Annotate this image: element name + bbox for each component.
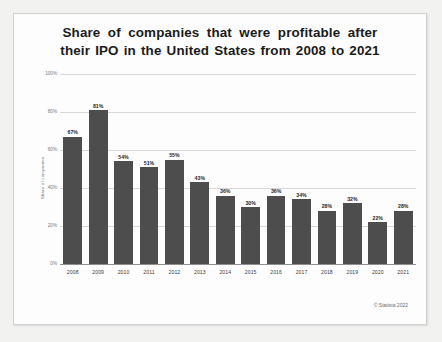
bar-slot[interactable]: 36% bbox=[263, 74, 288, 264]
bar-slot[interactable]: 36% bbox=[213, 74, 238, 264]
chart-card: Share of companies that were profitable … bbox=[13, 13, 427, 325]
y-axis-tick-label: 60% bbox=[48, 147, 57, 152]
bar[interactable]: 32% bbox=[343, 203, 362, 264]
bar-value-label: 81% bbox=[93, 103, 103, 109]
x-axis-tick-label: 2020 bbox=[365, 269, 390, 275]
y-axis-tick-label: 100% bbox=[45, 71, 57, 76]
screenshot-canvas: Share of companies that were profitable … bbox=[0, 0, 442, 342]
bar-value-label: 30% bbox=[245, 200, 255, 206]
bar[interactable]: 28% bbox=[394, 211, 413, 264]
bar-slot[interactable]: 81% bbox=[85, 74, 110, 264]
chart-title-line-2: their IPO in the United States from 2008… bbox=[14, 42, 426, 60]
bar-value-label: 32% bbox=[347, 196, 357, 202]
bar-value-label: 67% bbox=[68, 129, 78, 135]
bar-slot[interactable]: 28% bbox=[390, 74, 415, 264]
bar[interactable]: 30% bbox=[241, 207, 260, 264]
bar[interactable]: 43% bbox=[190, 182, 209, 264]
bar-slot[interactable]: 55% bbox=[162, 74, 187, 264]
x-axis-tick-label: 2012 bbox=[162, 269, 187, 275]
bar[interactable]: 36% bbox=[216, 196, 235, 264]
bar-value-label: 36% bbox=[220, 188, 230, 194]
bar-value-label: 54% bbox=[118, 154, 128, 160]
x-axis-tick-label: 2013 bbox=[187, 269, 212, 275]
bar[interactable]: 51% bbox=[140, 167, 159, 264]
bar-slot[interactable]: 51% bbox=[136, 74, 161, 264]
x-axis-tick-label: 2019 bbox=[340, 269, 365, 275]
x-axis-tick-label: 2011 bbox=[136, 269, 161, 275]
bar-slot[interactable]: 43% bbox=[187, 74, 212, 264]
x-axis-tick-label: 2008 bbox=[60, 269, 85, 275]
y-axis-tick-label: 40% bbox=[48, 185, 57, 190]
bar-value-label: 34% bbox=[296, 192, 306, 198]
chart-title-line-1: Share of companies that were profitable … bbox=[14, 24, 426, 42]
x-axis-tick-label: 2021 bbox=[390, 269, 415, 275]
bar-slot[interactable]: 32% bbox=[340, 74, 365, 264]
bar[interactable]: 54% bbox=[114, 161, 133, 264]
bar[interactable]: 36% bbox=[267, 196, 286, 264]
bar-slot[interactable]: 67% bbox=[60, 74, 85, 264]
bar[interactable]: 81% bbox=[89, 110, 108, 264]
bar-value-label: 51% bbox=[144, 160, 154, 166]
x-axis-tick-label: 2014 bbox=[213, 269, 238, 275]
bar-value-label: 36% bbox=[271, 188, 281, 194]
chart-title: Share of companies that were profitable … bbox=[14, 24, 426, 60]
bar-value-label: 55% bbox=[169, 152, 179, 158]
bar[interactable]: 55% bbox=[165, 160, 184, 265]
x-axis-tick-label: 2015 bbox=[238, 269, 263, 275]
y-axis-tick-label: 80% bbox=[48, 109, 57, 114]
plot-area: Share of companies 0%20%40%60%80%100% 67… bbox=[44, 74, 416, 282]
bar-value-label: 43% bbox=[195, 175, 205, 181]
bar-value-label: 28% bbox=[322, 203, 332, 209]
x-axis-tick-label: 2016 bbox=[263, 269, 288, 275]
bar-slot[interactable]: 30% bbox=[238, 74, 263, 264]
x-axis-labels: 2008200920102011201220132014201520162017… bbox=[60, 266, 416, 282]
bar[interactable]: 22% bbox=[368, 222, 387, 264]
bar-value-label: 22% bbox=[373, 215, 383, 221]
x-axis-tick-label: 2018 bbox=[314, 269, 339, 275]
bar-slot[interactable]: 54% bbox=[111, 74, 136, 264]
bar-slot[interactable]: 22% bbox=[365, 74, 390, 264]
bar[interactable]: 67% bbox=[63, 137, 82, 264]
gridline bbox=[60, 264, 416, 265]
y-axis-tick-label: 0% bbox=[50, 261, 57, 266]
x-axis-tick-label: 2017 bbox=[289, 269, 314, 275]
bar[interactable]: 34% bbox=[292, 199, 311, 264]
bar-value-label: 28% bbox=[398, 203, 408, 209]
bar[interactable]: 28% bbox=[318, 211, 337, 264]
source-credit: © Statista 2022 bbox=[374, 302, 408, 308]
bar-slot[interactable]: 28% bbox=[314, 74, 339, 264]
x-axis-tick-label: 2010 bbox=[111, 269, 136, 275]
bar-slot[interactable]: 34% bbox=[289, 74, 314, 264]
bars-layer: 67%81%54%51%55%43%36%30%36%34%28%32%22%2… bbox=[60, 74, 416, 264]
y-axis-tick-label: 20% bbox=[48, 223, 57, 228]
y-axis-title: Share of companies bbox=[40, 157, 45, 200]
x-axis-tick-label: 2009 bbox=[85, 269, 110, 275]
